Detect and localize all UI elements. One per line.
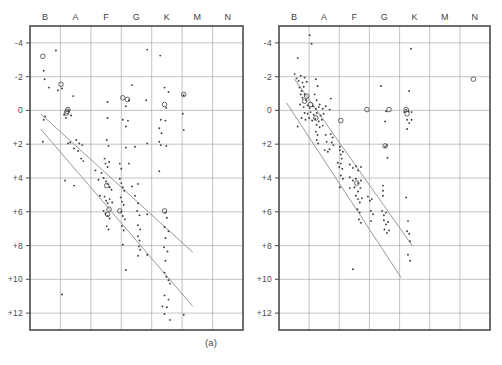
data-point-dot xyxy=(120,211,122,213)
data-point-dot xyxy=(107,101,109,103)
spectral-class-label-N: N xyxy=(224,12,231,22)
data-point-dot xyxy=(134,146,136,148)
data-point-dot xyxy=(406,128,408,130)
data-point-dot xyxy=(42,141,44,143)
data-point-dot xyxy=(128,163,130,165)
data-point-dot xyxy=(307,113,309,115)
data-point-dot xyxy=(309,34,311,36)
data-point-dot xyxy=(107,202,109,204)
data-point-dot xyxy=(360,222,362,224)
data-point-open-circle xyxy=(59,82,64,87)
data-point-dot xyxy=(299,104,301,106)
data-point-dot xyxy=(314,93,316,95)
data-point-dot xyxy=(408,122,410,124)
data-point-dot xyxy=(338,166,340,168)
data-point-dot xyxy=(109,186,111,188)
data-point-dot xyxy=(300,75,302,77)
data-point-dot xyxy=(139,214,141,216)
spectral-class-label-B: B xyxy=(291,12,297,22)
data-point-dot xyxy=(43,70,45,72)
data-point-dot xyxy=(383,219,385,221)
data-point-dot xyxy=(411,119,413,121)
data-point-dot xyxy=(182,113,184,115)
spectral-class-label-G: G xyxy=(381,12,388,22)
y-tick-label: +4 xyxy=(262,173,272,183)
data-point-dot xyxy=(357,169,359,171)
data-point-dot xyxy=(57,89,59,91)
data-point-dot xyxy=(327,151,329,153)
data-point-dot xyxy=(406,230,408,232)
y-tick-label: 0 xyxy=(18,105,23,115)
data-point-dot xyxy=(332,144,334,146)
data-point-dot xyxy=(122,244,124,246)
data-point-dot xyxy=(403,111,405,113)
data-point-dot xyxy=(146,142,148,144)
data-point-dot xyxy=(146,254,148,256)
data-point-dot xyxy=(411,111,413,113)
data-point-dot xyxy=(387,157,389,159)
data-point-dot xyxy=(103,177,105,179)
data-point-dot xyxy=(321,119,323,121)
data-point-dot xyxy=(340,163,342,165)
data-point-dot xyxy=(359,212,361,214)
data-point-dot xyxy=(111,189,113,191)
data-point-dot xyxy=(127,120,129,122)
data-point-dot xyxy=(168,91,170,93)
data-point-dot xyxy=(329,109,331,111)
data-point-dot xyxy=(406,119,408,121)
data-point-dot xyxy=(136,210,138,212)
data-point-dot xyxy=(48,87,50,89)
data-point-dot xyxy=(161,132,163,134)
data-point-dot xyxy=(340,153,342,155)
data-point-dot xyxy=(360,166,362,168)
data-point-dot xyxy=(111,202,113,204)
data-point-dot xyxy=(125,105,127,107)
data-point-dot xyxy=(385,212,387,214)
data-point-dot xyxy=(75,139,77,141)
data-point-dot xyxy=(106,139,108,141)
lower-main-sequence-line xyxy=(41,129,193,306)
data-point-dot xyxy=(341,168,343,170)
data-point-dot xyxy=(164,272,166,274)
data-point-dot xyxy=(386,232,388,234)
data-point-dot xyxy=(311,43,313,45)
data-point-dot xyxy=(357,182,359,184)
data-point-dot xyxy=(355,178,357,180)
data-point-dot xyxy=(67,142,69,144)
data-point-dot xyxy=(305,99,307,101)
data-point-dot xyxy=(122,186,124,188)
data-point-dot xyxy=(164,260,166,262)
data-point-dot xyxy=(73,185,75,187)
y-tick-label: +8 xyxy=(262,241,272,251)
data-point-dot xyxy=(119,178,121,180)
data-point-dot xyxy=(320,115,322,117)
upper-main-sequence-line xyxy=(41,114,193,253)
data-point-dot xyxy=(72,95,74,97)
data-point-dot xyxy=(131,185,133,187)
spectral-class-label-M: M xyxy=(441,12,449,22)
data-point-dot xyxy=(109,198,111,200)
data-point-dot xyxy=(63,114,65,116)
data-point-dot xyxy=(342,151,344,153)
data-point-dot xyxy=(73,147,75,149)
data-point-dot xyxy=(61,294,63,296)
data-point-dot xyxy=(108,145,110,147)
data-point-dot xyxy=(307,104,309,106)
data-point-dot xyxy=(384,120,386,122)
data-point-dot xyxy=(164,120,166,122)
spectral-class-label-B: B xyxy=(42,12,48,22)
data-point-dot xyxy=(139,240,141,242)
data-point-dot xyxy=(125,269,127,271)
data-point-dot xyxy=(164,313,166,315)
y-tick-label: +12 xyxy=(257,308,272,318)
data-point-dot xyxy=(168,230,170,232)
data-point-dot xyxy=(382,185,384,187)
spectral-class-label-F: F xyxy=(351,12,357,22)
data-point-dot xyxy=(339,146,341,148)
data-point-dot xyxy=(164,87,166,89)
data-point-dot xyxy=(164,212,166,214)
data-point-dot xyxy=(316,139,318,141)
data-point-dot xyxy=(331,142,333,144)
data-point-dot xyxy=(302,97,304,99)
data-point-open-circle xyxy=(162,102,167,107)
